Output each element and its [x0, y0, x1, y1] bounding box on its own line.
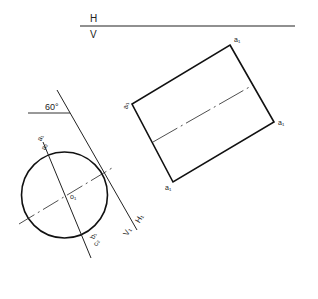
- rect-label-left: a₁: [122, 102, 129, 109]
- label-v: V: [90, 29, 97, 40]
- rect-label-right: a₁: [278, 119, 285, 126]
- rectangle-centerline: [153, 85, 253, 142]
- circle-label-bottom-2: c₂: [92, 238, 101, 247]
- circle-label-top-1: a₁: [36, 133, 45, 142]
- rect-label-top: a₁: [234, 36, 241, 43]
- label-v1: V₁: [121, 226, 133, 238]
- circle-label-top-2: a₂: [40, 142, 49, 151]
- rect-label-bottom: a₁: [165, 184, 172, 191]
- auxiliary-axis: [57, 90, 137, 230]
- projection-drawing: H V a₁ a₁ a₁ a₁ 60° H₁ V₁ a₁ a₂ o₁ b₁ c₂: [0, 0, 318, 299]
- circle-axis-line: [43, 142, 91, 258]
- circle-label-center: o₁: [70, 193, 77, 200]
- label-h: H: [90, 13, 97, 24]
- angle-label: 60°: [45, 102, 59, 112]
- label-h1: H₁: [133, 212, 145, 224]
